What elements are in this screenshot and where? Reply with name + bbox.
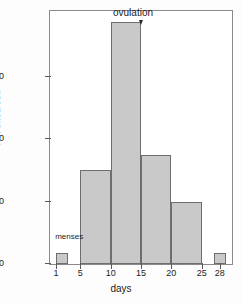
x-tick-10 [111,263,112,269]
x-tick-label-28: 28 [209,268,231,278]
plot-area: menses ovulation [49,10,233,265]
bar-15-20 [141,155,171,264]
x-tick-label-5: 5 [69,268,91,278]
x-tick-25 [202,263,203,269]
x-tick-20 [171,263,172,269]
x-tick-label-1: 1 [45,268,67,278]
x-tick-label-10: 10 [100,268,122,278]
x-tick-label-15: 15 [130,268,152,278]
y-tick-label-4000: 4000 [0,196,4,206]
y-tick-4000 [45,201,51,202]
y-tick-label-12000: 12000 [0,71,4,81]
x-tick-5 [80,263,81,269]
x-tick-28 [220,263,221,269]
x-tick-label-20: 20 [160,268,182,278]
y-tick-12000 [45,76,51,77]
x-axis-title: days [0,283,242,294]
bar-20-25 [171,202,201,264]
bar-5-10 [80,170,110,264]
y-tick-label-8000: 8000 [0,133,4,143]
x-tick-15 [141,263,142,269]
bar-10-15 [111,22,141,264]
x-tick-1 [56,263,57,269]
figure: PR sites/cell 04000800012000 15101520252… [0,0,242,304]
y-tick-label-0: 0 [0,258,4,268]
y-tick-8000 [45,138,51,139]
menses-annotation-label: menses [55,232,83,241]
y-tick-0 [45,263,51,264]
bar-1-3 [56,253,68,264]
ovulation-annotation-label: ovulation [113,7,153,18]
